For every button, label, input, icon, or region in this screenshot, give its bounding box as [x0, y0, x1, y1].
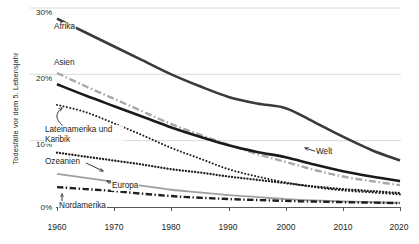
- x-tick-2020: 2020: [390, 222, 409, 232]
- x-tickmark-2020: [400, 207, 401, 211]
- x-tickmark-2000: [286, 207, 287, 211]
- x-tick-1980: 1980: [162, 222, 181, 232]
- x-tick-2010: 2010: [334, 222, 353, 232]
- x-tickmark-1980: [171, 207, 172, 211]
- y-tick-0: 0%: [40, 203, 52, 212]
- y-tick-20: 20%: [36, 74, 52, 83]
- chart-container: Todesfälle vor dem 5. Lebensjahr 30% 20%…: [0, 0, 419, 244]
- series-label-asien: Asien: [53, 58, 75, 68]
- x-tick-1960: 1960: [48, 222, 67, 232]
- x-tickmark-2010: [343, 207, 344, 211]
- x-tick-1970: 1970: [105, 222, 124, 232]
- leader-arrow-ozeanien: [86, 163, 103, 171]
- series-label-ozeanien: Ozeanien: [44, 157, 81, 167]
- series-label-nordamerika: Nordamerika: [58, 201, 107, 211]
- series-label-welt: Welt: [315, 147, 333, 157]
- x-tickmark-1990: [229, 207, 230, 211]
- y-tick-30: 30%: [36, 8, 52, 17]
- series-lines: [57, 8, 400, 207]
- series-label-lateinamerika-und-karibik: Lateinamerika und Karibik: [44, 125, 124, 144]
- x-tickmark-1970: [114, 207, 115, 211]
- plot-area: [57, 8, 400, 207]
- series-line-europa: [57, 174, 400, 203]
- series-label-afrika: Afrika: [53, 22, 76, 32]
- x-tick-2000: 2000: [277, 222, 296, 232]
- x-tick-1990: 1990: [219, 222, 238, 232]
- y-axis-tick-labels: 30% 20% 10% 0%: [18, 0, 52, 244]
- series-label-europa: Europa: [111, 181, 139, 191]
- x-tickmark-1960: [57, 207, 58, 211]
